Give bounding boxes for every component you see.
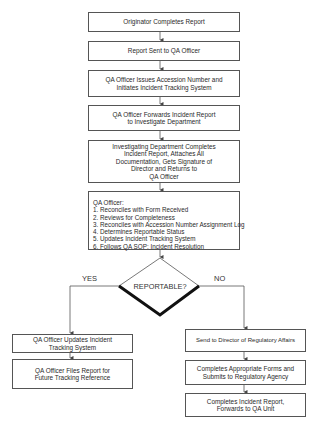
decision-label: REPORTABLE?	[120, 282, 200, 291]
qa-officer-checklist: QA Officer: 1. Reconciles with Form Rece…	[88, 191, 240, 250]
step-forward-incident-report: QA Officer Forwards Incident Report to I…	[88, 105, 240, 131]
no-step-send-to-director: Send to Director of Regulatory Affairs	[185, 329, 306, 352]
yes-step-update-tracking: QA Officer Updates Incident Tracking Sys…	[12, 334, 133, 353]
yes-label: YES	[82, 274, 97, 283]
yes-step-file-report: QA Officer Files Report for Future Track…	[12, 359, 133, 389]
step-report-sent-to-qa: Report Sent to QA Officer	[88, 41, 240, 61]
no-step-complete-forms: Completes Appropriate Forms and Submits …	[185, 360, 306, 385]
no-step-complete-incident-report: Completes Incident Report, Forwards to Q…	[185, 393, 306, 417]
step-originator-completes-report: Originator Completes Report	[88, 12, 240, 32]
no-label: NO	[214, 274, 225, 283]
step-investigating-department: Investigating Department Completes Incid…	[88, 140, 240, 183]
step-issue-accession-number: QA Officer Issues Accession Number and I…	[88, 70, 240, 97]
